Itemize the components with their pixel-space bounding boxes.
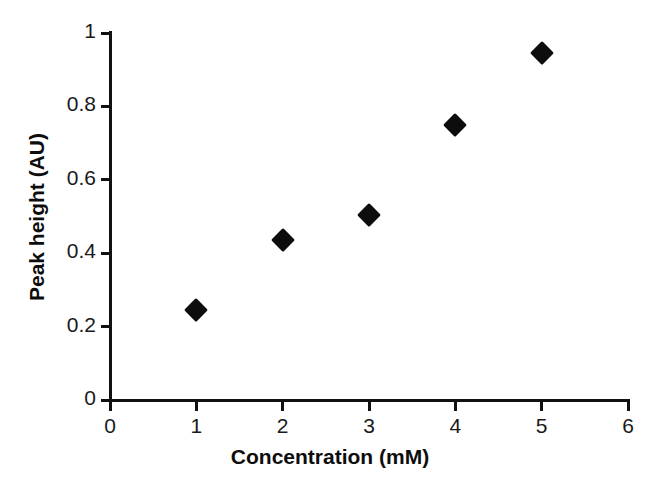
- y-tick-mark: [101, 252, 110, 255]
- x-tick-mark: [454, 402, 457, 411]
- x-tick-label: 5: [522, 414, 562, 438]
- data-point-marker: [271, 228, 295, 252]
- x-tick-mark: [109, 402, 112, 411]
- y-tick-label: 1: [24, 19, 96, 43]
- x-tick-label: 3: [349, 414, 389, 438]
- data-point-marker: [184, 298, 208, 322]
- x-tick-label: 2: [263, 414, 303, 438]
- data-point-marker: [357, 203, 381, 227]
- x-tick-mark: [627, 402, 630, 411]
- y-tick-label: 0: [24, 386, 96, 410]
- data-point-marker: [443, 113, 467, 137]
- x-axis-title: Concentration (mM): [0, 445, 660, 469]
- x-tick-label: 6: [608, 414, 648, 438]
- y-tick-mark: [101, 178, 110, 181]
- x-tick-mark: [368, 402, 371, 411]
- y-tick-mark: [101, 325, 110, 328]
- x-tick-mark: [195, 402, 198, 411]
- y-tick-mark: [101, 32, 110, 35]
- y-axis-title: Peak height (AU): [25, 67, 49, 367]
- x-tick-mark: [281, 402, 284, 411]
- chart-figure: 00.20.40.60.81 0123456 Concentration (mM…: [0, 0, 660, 489]
- x-tick-label: 4: [435, 414, 475, 438]
- x-tick-label: 0: [90, 414, 130, 438]
- x-tick-mark: [540, 402, 543, 411]
- plot-area: [110, 33, 628, 400]
- y-tick-mark: [101, 105, 110, 108]
- x-tick-label: 1: [176, 414, 216, 438]
- data-point-marker: [530, 41, 554, 65]
